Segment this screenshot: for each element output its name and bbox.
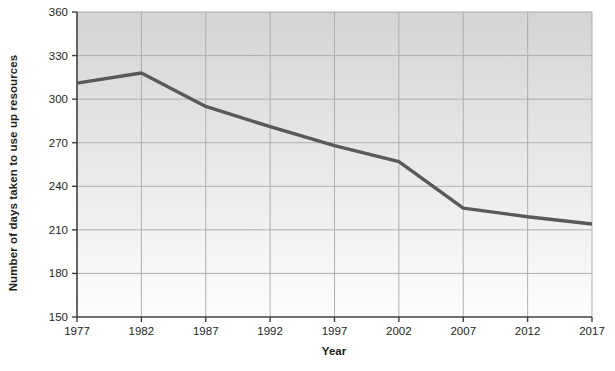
x-tick-label: 2007	[450, 325, 476, 337]
y-tick-label: 360	[49, 6, 68, 18]
x-tick-label: 1997	[322, 325, 348, 337]
line-chart: Number of days taken to use up resources…	[0, 0, 615, 371]
x-tick-label: 1992	[257, 325, 283, 337]
x-tick-label: 2017	[579, 325, 605, 337]
x-tick-label: 1977	[64, 325, 90, 337]
y-tick-label: 210	[49, 224, 68, 236]
x-tick-label: 1982	[129, 325, 155, 337]
x-axis-ticks: 197719821987199219972002200720122017	[64, 317, 605, 337]
y-tick-label: 270	[49, 137, 68, 149]
x-tick-label: 2012	[515, 325, 541, 337]
x-tick-label: 1987	[193, 325, 219, 337]
y-axis-ticks: 150180210240270300330360	[49, 6, 77, 323]
plot-area: 150180210240270300330360 197719821987199…	[0, 0, 615, 371]
y-tick-label: 240	[49, 180, 68, 192]
y-tick-label: 180	[49, 267, 68, 279]
y-tick-label: 150	[49, 311, 68, 323]
y-tick-label: 300	[49, 93, 68, 105]
y-tick-label: 330	[49, 50, 68, 62]
x-tick-label: 2002	[386, 325, 412, 337]
